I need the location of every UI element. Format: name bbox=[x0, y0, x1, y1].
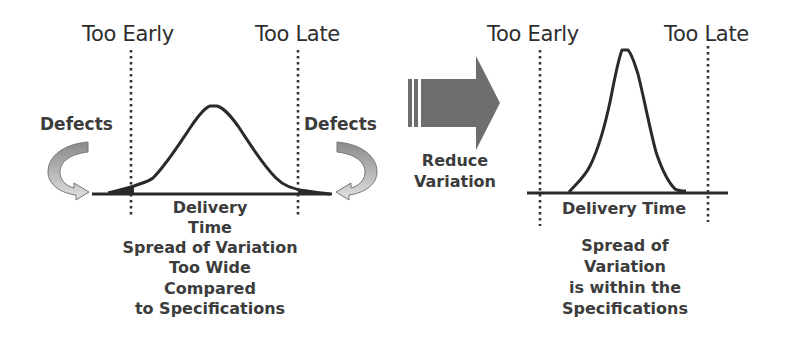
transition-label-line: Variation bbox=[400, 171, 510, 192]
left-caption-line: Too Wide bbox=[80, 258, 340, 278]
transition-label-line: Reduce bbox=[400, 150, 510, 171]
left-caption-line: Spread of Variation bbox=[80, 238, 340, 258]
curved-arrow-icon-left bbox=[48, 142, 89, 200]
right-defects-label: Defects bbox=[304, 114, 377, 134]
right-too-early-label: Too Early bbox=[487, 22, 579, 46]
transition-label: Reduce Variation bbox=[400, 150, 510, 192]
left-caption: Spread of Variation Too Wide Compared to… bbox=[80, 238, 340, 319]
left-defects-label: Defects bbox=[40, 114, 113, 134]
right-too-late-label: Too Late bbox=[664, 22, 749, 46]
left-wide-bell-curve bbox=[108, 106, 330, 194]
left-axis-label-line: Time bbox=[110, 218, 310, 238]
curved-arrow-icon-right bbox=[336, 142, 377, 200]
right-caption-line: is within the bbox=[540, 277, 710, 298]
left-caption-line: to Specifications bbox=[80, 299, 340, 319]
right-caption-line: Spread of bbox=[540, 235, 710, 256]
left-too-late-label: Too Late bbox=[255, 22, 340, 46]
right-caption: Spread of Variation is within the Specif… bbox=[540, 235, 710, 319]
left-caption-line: Compared bbox=[80, 279, 340, 299]
left-too-early-label: Too Early bbox=[82, 22, 174, 46]
left-distribution bbox=[92, 50, 332, 218]
reduce-variation-arrow-icon bbox=[408, 56, 500, 150]
left-axis-label: Delivery Time bbox=[110, 198, 310, 239]
left-axis-label-line: Delivery bbox=[110, 198, 310, 218]
right-caption-line: Variation bbox=[540, 256, 710, 277]
right-axis-label: Delivery Time bbox=[540, 199, 708, 219]
right-caption-line: Specifications bbox=[540, 298, 710, 319]
right-narrow-bell-curve bbox=[569, 50, 686, 192]
